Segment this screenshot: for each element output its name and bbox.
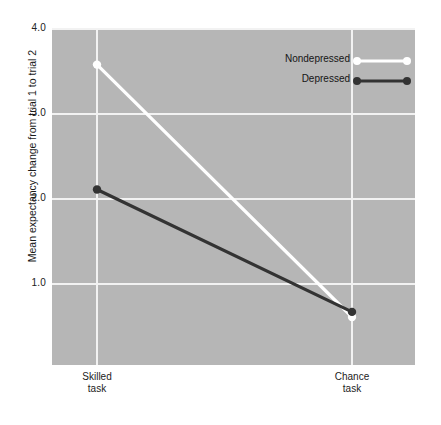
x-tick-label-chance: Chance task (307, 371, 397, 395)
series-line-nondepressed (97, 65, 352, 317)
y-tick-label-4: 4.0 (2, 22, 46, 33)
y-tick-label-1: 1.0 (2, 277, 46, 288)
x-tick-label-chance-line2: task (307, 383, 397, 395)
y-tick-label-2: 2.0 (2, 192, 46, 203)
data-point-depressed-skilled (93, 185, 101, 193)
y-tick-label-3: 3.0 (2, 107, 46, 118)
series-line-depressed (97, 190, 352, 312)
legend-swatch-nondepressed (352, 53, 412, 69)
legend-label-nondepressed: Nondepressed (285, 53, 350, 64)
legend-swatch-depressed (352, 73, 412, 89)
series-nondepressed (93, 60, 356, 321)
x-tick-label-skilled: Skilled task (52, 371, 142, 395)
series-depressed (93, 185, 356, 316)
x-tick-label-skilled-line1: Skilled (52, 371, 142, 383)
plot-area: Nondepressed Depressed (52, 28, 415, 365)
y-axis-title: Mean expectancy change from trial 1 to t… (26, 6, 38, 306)
legend-item-nondepressed: Nondepressed (222, 53, 412, 69)
x-tick-label-skilled-line2: task (52, 383, 142, 395)
chart-figure: Mean expectancy change from trial 1 to t… (0, 0, 441, 425)
legend-item-depressed: Depressed (222, 73, 412, 89)
chart-legend: Nondepressed Depressed (222, 40, 412, 84)
data-point-depressed-chance (348, 308, 356, 316)
data-point-nondepressed-skilled (93, 60, 101, 68)
legend-label-depressed: Depressed (302, 73, 350, 84)
x-tick-label-chance-line1: Chance (307, 371, 397, 383)
